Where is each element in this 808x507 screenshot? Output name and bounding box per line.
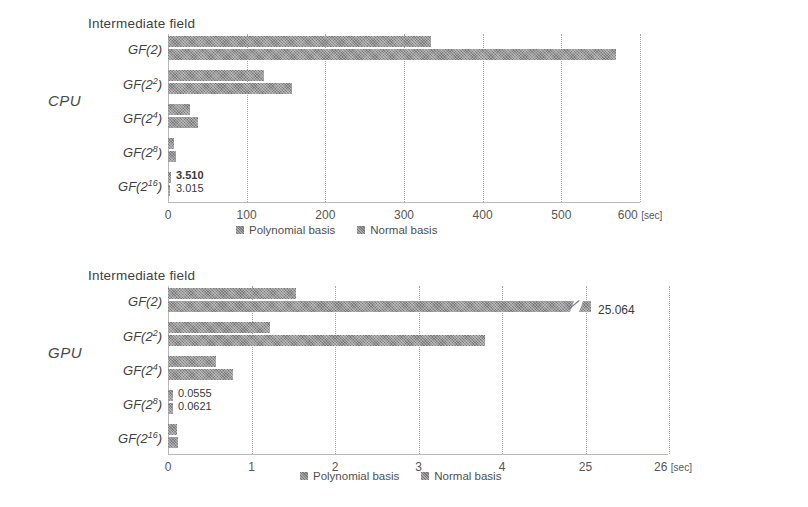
category-label-gf2: GF(2)	[128, 43, 162, 56]
bar-poly-gf2	[168, 288, 296, 299]
bar-norm-gf2	[168, 49, 616, 60]
bar-norm-gf2-16	[168, 185, 170, 196]
legend-label-normal: Normal basis	[370, 224, 437, 236]
bar-norm-gf2-4	[168, 117, 198, 128]
xtick-200: 200	[315, 208, 335, 222]
xtick-26: 26 [sec]	[654, 460, 692, 474]
category-label-gf2-2: GF(22)	[123, 77, 162, 91]
category-label-gf2-2: GF(22)	[123, 329, 162, 343]
bar-group-gf2: GF(2)	[168, 36, 640, 66]
xtick-100: 100	[237, 208, 257, 222]
legend-item-polynomial: Polynomial basis	[300, 470, 399, 482]
bar-poly-gf2-2	[168, 322, 270, 333]
value-label-poly-gf2-16: 3.510	[176, 170, 204, 182]
value-label-poly-gf2-8: 0.0555	[178, 388, 212, 400]
gpu-chart-panel: GPU Intermediate field GF(2) ⁄ 25.064 GF…	[0, 252, 808, 507]
legend-swatch-icon-polynomial	[236, 226, 244, 234]
legend-label-polynomial: Polynomial basis	[249, 224, 335, 236]
bar-norm-gf2-8	[168, 151, 176, 162]
bar-norm-gf2-8	[168, 403, 173, 414]
legend-label-polynomial: Polynomial basis	[313, 470, 399, 482]
bar-poly-gf2	[168, 36, 431, 47]
bar-group-gf2-4: GF(24)	[168, 104, 640, 134]
category-label-gf2-8: GF(28)	[123, 145, 162, 159]
gpu-plot-area: GF(2) ⁄ 25.064 GF(22) GF(24) GF(28) 0.05…	[168, 286, 668, 456]
xtick-400: 400	[473, 208, 493, 222]
bar-group-gf2-4: GF(24)	[168, 356, 668, 386]
xtick-300: 300	[394, 208, 414, 222]
bar-norm-gf2-16	[168, 437, 178, 448]
bar-poly-gf2-8	[168, 138, 174, 149]
xtick-26-value: 26	[654, 460, 667, 474]
xtick-0: 0	[165, 460, 172, 474]
xtick-0: 0	[165, 208, 172, 222]
bar-group-gf2: GF(2) ⁄ 25.064	[168, 288, 668, 318]
cpu-axis-line	[168, 202, 640, 203]
category-label-gf2-4: GF(24)	[123, 363, 162, 377]
bar-norm-gf2-2	[168, 335, 485, 346]
category-label-gf2: GF(2)	[128, 295, 162, 308]
legend-item-polynomial: Polynomial basis	[236, 224, 335, 236]
value-label-norm-gf2: 25.064	[598, 304, 635, 317]
legend-item-normal: Normal basis	[357, 224, 437, 236]
bar-norm-gf2-2	[168, 83, 292, 94]
cpu-plot-area: GF(2) GF(22) GF(24) GF(28) GF(216) 3	[168, 34, 640, 204]
bar-poly-gf2-4	[168, 104, 190, 115]
gridline-26	[669, 286, 670, 454]
legend-item-normal: Normal basis	[421, 470, 501, 482]
bar-group-gf2-16: GF(216) 3.510 3.015	[168, 172, 640, 202]
category-label-gf2-16: GF(216)	[118, 179, 162, 193]
legend-label-normal: Normal basis	[434, 470, 501, 482]
xtick-25: 25	[579, 460, 592, 474]
bar-norm-gf2	[168, 301, 591, 312]
gridline-600	[640, 34, 641, 202]
legend-swatch-icon-polynomial	[300, 472, 308, 480]
cpu-chart-panel: CPU Intermediate field GF(2) GF(22) GF(2…	[0, 0, 808, 255]
category-label-gf2-16: GF(216)	[118, 431, 162, 445]
bar-group-gf2-2: GF(22)	[168, 322, 668, 352]
gpu-axis-line	[168, 454, 668, 455]
xtick-500: 500	[551, 208, 571, 222]
cpu-side-label: CPU	[48, 92, 81, 109]
gpu-legend: Polynomial basis Normal basis	[300, 470, 501, 482]
bar-group-gf2-8: GF(28)	[168, 138, 640, 168]
cpu-legend: Polynomial basis Normal basis	[236, 224, 437, 236]
bar-poly-gf2-4	[168, 356, 216, 367]
bar-poly-gf2-2	[168, 70, 264, 81]
gpu-axis-unit: [sec]	[671, 462, 692, 473]
category-label-gf2-8: GF(28)	[123, 397, 162, 411]
cpu-axis-title: Intermediate field	[88, 16, 195, 31]
bar-group-gf2-16: GF(216)	[168, 424, 668, 454]
legend-swatch-icon-normal	[357, 226, 365, 234]
cpu-axis-unit: [sec]	[641, 210, 662, 221]
bar-norm-gf2-4	[168, 369, 233, 380]
bar-poly-gf2-16	[168, 172, 171, 183]
value-label-norm-gf2-16: 3.015	[176, 183, 204, 195]
bar-poly-gf2-16	[168, 424, 177, 435]
value-label-norm-gf2-8: 0.0621	[178, 401, 212, 413]
xtick-1: 1	[248, 460, 255, 474]
bar-group-gf2-2: GF(22)	[168, 70, 640, 100]
gpu-side-label: GPU	[48, 344, 82, 361]
category-label-gf2-4: GF(24)	[123, 111, 162, 125]
xtick-600-value: 600	[618, 208, 638, 222]
gpu-axis-title: Intermediate field	[88, 268, 195, 283]
bar-poly-gf2-8	[168, 390, 173, 401]
xtick-600: 600 [sec]	[618, 208, 663, 222]
legend-swatch-icon-normal	[421, 472, 429, 480]
bar-group-gf2-8: GF(28) 0.0555 0.0621	[168, 390, 668, 420]
